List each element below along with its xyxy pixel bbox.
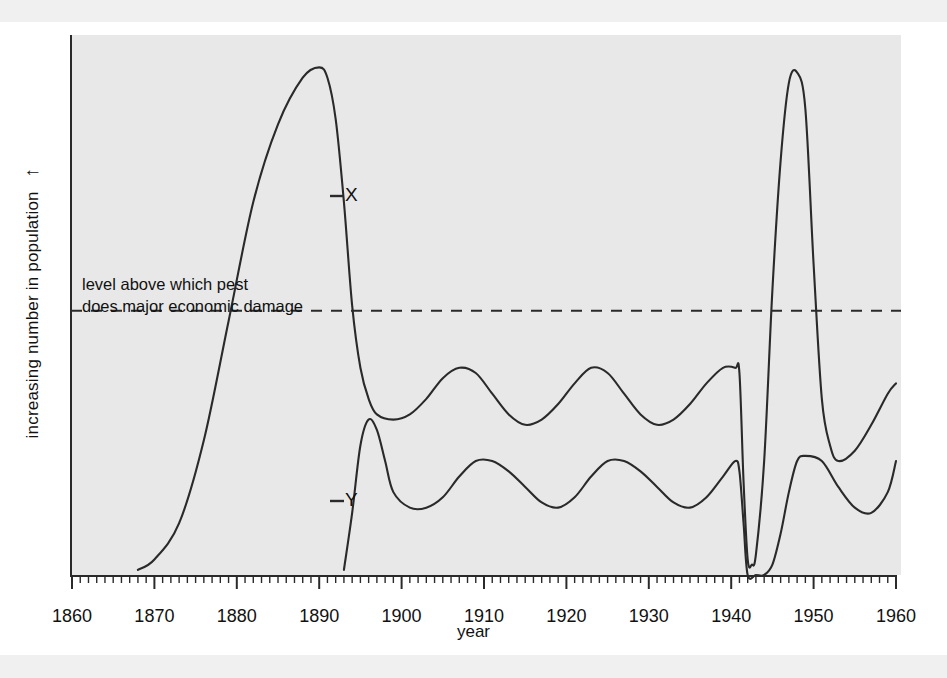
y-axis-label: increasing number in population↑ [21, 43, 43, 563]
curve-x-label: X [345, 184, 358, 206]
threshold-annotation-line2: does major economic damage [82, 296, 303, 316]
x-axis-label: year [0, 622, 947, 642]
up-arrow-icon: ↑ [21, 168, 43, 178]
threshold-annotation: level above which pest does major econom… [82, 274, 248, 294]
curve-x-path [138, 67, 896, 569]
curve-y-label: Y [345, 489, 358, 511]
scan-band-top [0, 0, 947, 22]
y-axis-label-text: increasing number in population [23, 191, 42, 438]
scan-band-bottom [0, 655, 947, 678]
x-axis-tick-labels: 1860187018801890190019101920193019401950… [0, 584, 947, 612]
curves-layer [0, 22, 947, 655]
curve-y-path [344, 419, 896, 579]
figure-panel: X Y level above which pest does major ec… [0, 22, 947, 655]
threshold-annotation-line1: level above which pest [82, 275, 248, 293]
